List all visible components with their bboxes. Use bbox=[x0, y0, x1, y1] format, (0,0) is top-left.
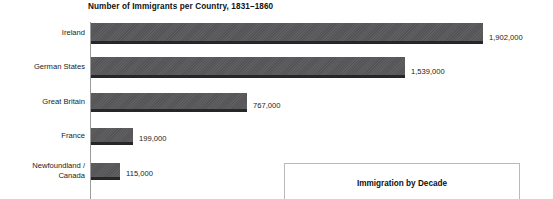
bar-value-label: 1,539,000 bbox=[411, 67, 445, 76]
bar-value-label: 1,902,000 bbox=[489, 33, 523, 42]
bar-category-label: Great Britain bbox=[0, 97, 85, 107]
immigration-by-decade-panel: Immigration by Decade bbox=[284, 163, 520, 199]
bar-shape bbox=[91, 57, 405, 78]
bar-shape bbox=[91, 93, 247, 112]
bar-value-label: 115,000 bbox=[126, 169, 153, 178]
bar-shape bbox=[91, 163, 120, 180]
bar-value-label: 767,000 bbox=[253, 101, 280, 110]
immigration-by-decade-title: Immigration by Decade bbox=[285, 179, 519, 188]
bar-category-label: German States bbox=[0, 62, 85, 72]
bar-category-label: France bbox=[0, 131, 85, 141]
bar-category-label: Ireland bbox=[0, 28, 85, 38]
bar-value-label: 199,000 bbox=[139, 134, 166, 143]
bar-shape bbox=[91, 23, 483, 44]
bar-shape bbox=[91, 128, 133, 145]
immigration-bar-chart: Number of Immigrants per Country, 1831–1… bbox=[0, 0, 553, 199]
bar-category-label: Newfoundland / Canada bbox=[0, 161, 85, 180]
